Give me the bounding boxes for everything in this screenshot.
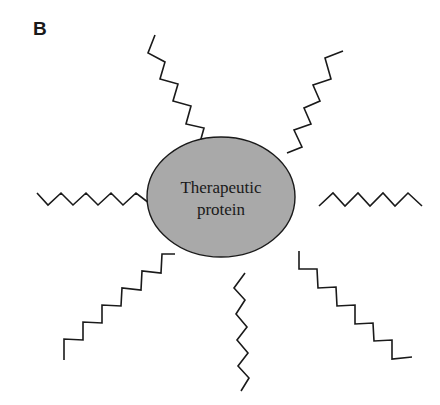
right-chain xyxy=(319,193,422,206)
top-right-chain xyxy=(287,51,343,153)
protein-label-line2: protein xyxy=(197,200,246,219)
bottom-chain xyxy=(234,273,249,391)
protein-label-line1: Therapeutic xyxy=(180,178,262,197)
top-left-chain xyxy=(148,35,204,146)
therapeutic-protein-ellipse xyxy=(147,137,295,257)
pegylated-protein-diagram: Therapeutic protein xyxy=(0,0,440,405)
bottom-right-chain xyxy=(299,251,412,359)
bottom-left-chain xyxy=(64,254,175,360)
left-chain xyxy=(37,193,149,205)
